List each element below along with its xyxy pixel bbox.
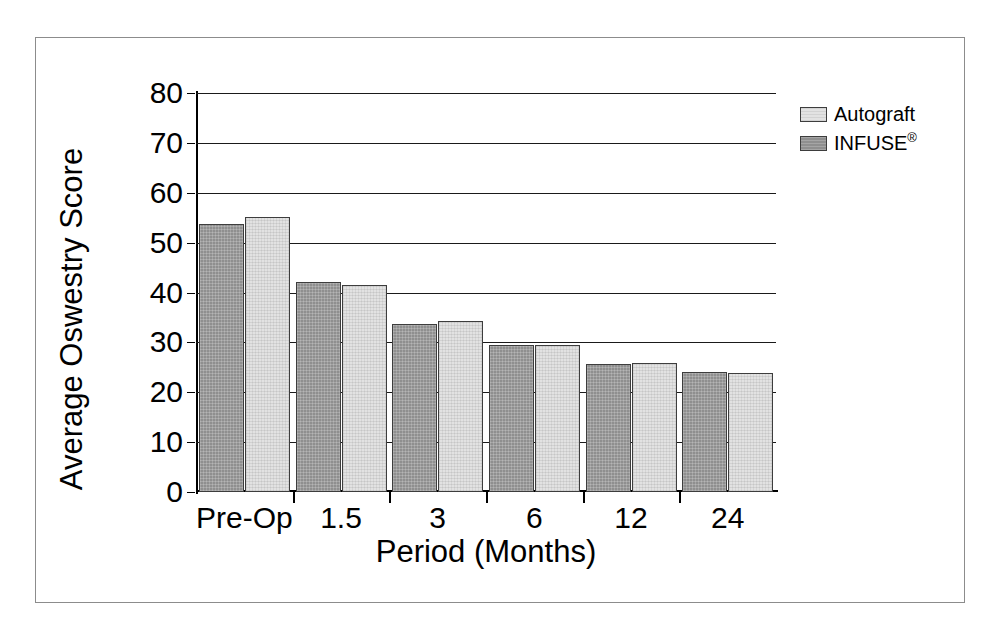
- bar: [632, 363, 677, 492]
- y-axis-tick: [187, 143, 195, 144]
- x-axis-tick-label: 24: [711, 503, 744, 533]
- y-axis-tick-label: 0: [166, 477, 183, 507]
- x-axis-tick: [293, 492, 295, 503]
- x-axis-tick-label: 3: [429, 503, 446, 533]
- figure-canvas: Average Oswestry Score Period (Months) 0…: [0, 0, 999, 638]
- y-axis-tick-label: 40: [150, 278, 183, 308]
- gridline: [196, 143, 776, 144]
- legend-swatch-autograft: [800, 107, 827, 122]
- y-axis-tick-label: 70: [150, 128, 183, 158]
- y-axis-tick-label: 20: [150, 377, 183, 407]
- x-axis-tick-label: Pre-Op: [196, 503, 293, 533]
- y-axis-tick-label: 50: [150, 228, 183, 258]
- legend: AutograftINFUSE®: [800, 104, 917, 153]
- y-axis-tick: [187, 93, 195, 94]
- y-axis-tick: [187, 293, 195, 294]
- bar: [535, 345, 580, 492]
- bar: [489, 345, 534, 492]
- legend-label: INFUSE®: [834, 133, 917, 153]
- y-axis-tick: [187, 392, 195, 393]
- y-axis-title: Average Oswestry Score: [54, 148, 90, 490]
- bar: [245, 217, 290, 492]
- legend-label: Autograft: [834, 104, 915, 124]
- y-axis-tick-label: 30: [150, 327, 183, 357]
- y-axis-tick-label: 80: [150, 78, 183, 108]
- y-axis-tick: [187, 442, 195, 443]
- legend-item: INFUSE®: [800, 133, 917, 153]
- bar: [682, 372, 727, 492]
- x-axis-tick-label: 1.5: [320, 503, 362, 533]
- bar: [296, 282, 341, 492]
- x-axis-tick-label: 12: [614, 503, 647, 533]
- bar: [438, 321, 483, 492]
- x-axis-title: Period (Months): [376, 534, 597, 570]
- legend-item: Autograft: [800, 104, 917, 124]
- x-axis-tick: [679, 492, 681, 503]
- x-axis-tick: [486, 492, 488, 503]
- bar: [392, 324, 437, 492]
- registered-trademark-icon: ®: [907, 130, 917, 145]
- bar: [586, 364, 631, 492]
- gridline: [196, 93, 776, 94]
- bar: [342, 285, 387, 492]
- plot-area: 01020304050607080 Pre-Op1.5361224: [196, 93, 776, 492]
- y-axis-tick-label: 10: [150, 427, 183, 457]
- bar: [199, 224, 244, 492]
- bar: [728, 373, 773, 492]
- x-axis-tick-label: 6: [526, 503, 543, 533]
- x-axis-tick: [583, 492, 585, 503]
- x-axis-tick: [389, 492, 391, 503]
- y-axis-tick-label: 60: [150, 178, 183, 208]
- y-axis-tick: [187, 193, 195, 194]
- legend-swatch-infuse: [800, 136, 827, 151]
- gridline: [196, 193, 776, 194]
- y-axis-tick: [187, 342, 195, 343]
- y-axis-tick: [187, 492, 195, 493]
- y-axis-tick: [187, 243, 195, 244]
